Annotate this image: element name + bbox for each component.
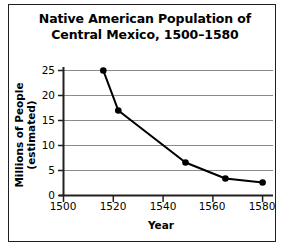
y-axis-ticks [58, 71, 63, 196]
data-point-1549 [182, 159, 189, 166]
data-point-1516 [100, 67, 107, 74]
data-point-markers [100, 67, 266, 186]
data-point-1522 [115, 107, 122, 114]
gridlines [63, 71, 273, 171]
data-series-line [103, 71, 262, 183]
plot-area [9, 5, 277, 243]
data-point-1565 [222, 175, 229, 182]
chart-figure: Native American Population of Central Me… [8, 4, 276, 242]
data-point-1580 [259, 179, 266, 186]
